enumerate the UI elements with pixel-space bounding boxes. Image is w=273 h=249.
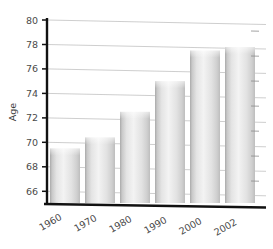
bar-chart: 80 78 76 74 72 70 68 66 Age 1960 1970 19… — [0, 0, 273, 249]
y-tick-label: 78 — [26, 39, 38, 50]
y-tick-label: 76 — [26, 63, 38, 74]
bar-1980 — [120, 112, 150, 203]
bar-1960 — [50, 149, 80, 203]
y-tick-label: 74 — [26, 88, 38, 99]
bar-2000 — [190, 51, 220, 203]
y-tick-label: 80 — [26, 15, 38, 26]
y-tick-label: 66 — [26, 186, 38, 197]
y-axis-title: Age — [7, 103, 18, 122]
y-tick-label: 70 — [26, 137, 38, 148]
y-tick-label: 68 — [26, 161, 38, 172]
bar-2002 — [225, 47, 255, 203]
bar-1990 — [155, 81, 185, 203]
chart-canvas: 80 78 76 74 72 70 68 66 Age 1960 1970 19… — [0, 0, 273, 249]
y-tick-label: 72 — [26, 112, 38, 123]
bar-1970 — [85, 138, 115, 203]
